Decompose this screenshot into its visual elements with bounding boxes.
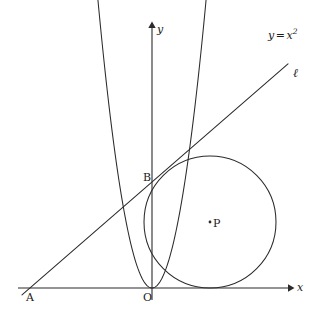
- figure-canvas: [0, 0, 323, 321]
- y-axis-arrowhead: [148, 22, 155, 29]
- point-p-label: P: [213, 218, 220, 229]
- parabola-equation-label: y=x2: [268, 28, 297, 41]
- x-axis-arrowhead: [288, 284, 295, 291]
- point-p-marker: [209, 221, 212, 224]
- line-ell-segment: [22, 64, 288, 295]
- geometry-figure: y x O A B P ℓ y=x2: [0, 0, 323, 321]
- parabola-eq-exponent: 2: [293, 27, 298, 36]
- point-a-label: A: [26, 292, 34, 303]
- x-axis-label: x: [297, 282, 303, 293]
- y-axis-label: y: [157, 24, 163, 35]
- x-axis: [18, 284, 295, 291]
- line-ell-label: ℓ: [293, 67, 298, 79]
- origin-label: O: [143, 292, 152, 303]
- parabola-eq-operator: =: [274, 29, 286, 42]
- parabola-curve: [41, 0, 266, 288]
- point-b-label: B: [143, 172, 151, 183]
